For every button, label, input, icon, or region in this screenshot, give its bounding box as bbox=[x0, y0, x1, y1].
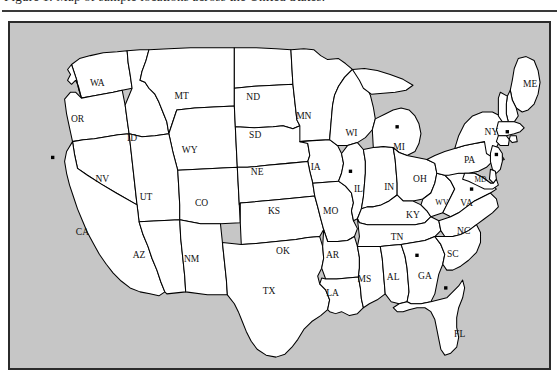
map-figure-frame: WAORIDMTWYNDSDNEMNIAWINVUTCACOAZNMKSOKTX… bbox=[8, 21, 551, 370]
state-label-CA: CA bbox=[76, 227, 89, 237]
state-label-WI: WI bbox=[345, 128, 357, 138]
state-label-KS: KS bbox=[268, 206, 280, 216]
state-label-ND: ND bbox=[246, 92, 260, 102]
state-label-WY: WY bbox=[182, 145, 198, 155]
state-shape-NJ bbox=[490, 146, 502, 174]
figure-caption-text: Figure 1. Map of sample locations across… bbox=[4, 0, 325, 5]
marker-georgia[interactable] bbox=[415, 254, 418, 257]
state-shape-SD[interactable] bbox=[234, 84, 300, 128]
marker-virginia[interactable] bbox=[470, 187, 473, 190]
state-label-FL: FL bbox=[454, 329, 465, 339]
state-label-MS: MS bbox=[357, 274, 371, 284]
marker-newjersey[interactable] bbox=[495, 153, 498, 156]
marker-illinois[interactable] bbox=[349, 170, 352, 173]
state-label-MD: MD bbox=[475, 175, 488, 184]
state-label-MN: MN bbox=[296, 111, 311, 121]
state-label-NM: NM bbox=[184, 254, 200, 264]
state-label-OR: OR bbox=[71, 114, 85, 124]
marker-california[interactable] bbox=[51, 156, 54, 159]
state-label-OK: OK bbox=[276, 246, 290, 256]
state-label-LA: LA bbox=[326, 288, 339, 298]
marker-florida[interactable] bbox=[444, 286, 447, 289]
state-label-IA: IA bbox=[311, 162, 321, 172]
state-label-TX: TX bbox=[263, 286, 276, 296]
state-label-ME: ME bbox=[523, 79, 537, 89]
state-label-MI: MI bbox=[393, 142, 405, 152]
state-label-WA: WA bbox=[90, 78, 105, 88]
state-shape-RI bbox=[509, 136, 517, 143]
state-label-AZ: AZ bbox=[133, 250, 146, 260]
state-label-IN: IN bbox=[384, 182, 394, 192]
state-label-MO: MO bbox=[323, 206, 338, 216]
state-label-SD: SD bbox=[249, 130, 261, 140]
state-label-UT: UT bbox=[140, 192, 153, 202]
state-label-TN: TN bbox=[391, 232, 404, 242]
state-label-VA: VA bbox=[460, 198, 473, 208]
state-label-NE: NE bbox=[251, 167, 264, 177]
state-label-PA: PA bbox=[464, 155, 475, 165]
figure-caption-strip: Figure 1. Map of sample locations across… bbox=[0, 0, 559, 9]
state-shape-VT bbox=[498, 92, 508, 122]
state-label-OH: OH bbox=[413, 174, 427, 184]
us-states-map[interactable]: WAORIDMTWYNDSDNEMNIAWINVUTCACOAZNMKSOKTX… bbox=[10, 23, 549, 368]
state-label-GA: GA bbox=[418, 271, 432, 281]
state-shape-MA bbox=[496, 122, 524, 136]
state-label-ID: ID bbox=[127, 133, 137, 143]
state-shape-CT bbox=[496, 136, 509, 146]
state-label-CO: CO bbox=[195, 198, 208, 208]
state-shape-WA[interactable] bbox=[72, 51, 133, 98]
state-shape-ND[interactable] bbox=[234, 48, 293, 89]
marker-michigan[interactable] bbox=[395, 125, 398, 128]
state-label-AL: AL bbox=[387, 272, 400, 282]
state-label-NV: NV bbox=[95, 174, 109, 184]
state-label-KY: KY bbox=[406, 210, 420, 220]
state-label-NY: NY bbox=[485, 127, 499, 137]
state-label-AR: AR bbox=[326, 250, 340, 260]
state-shape-NE[interactable] bbox=[235, 126, 309, 168]
state-shape-WY[interactable] bbox=[169, 106, 237, 170]
marker-massachusetts[interactable] bbox=[506, 130, 509, 133]
state-label-NC: NC bbox=[457, 226, 470, 236]
state-label-MT: MT bbox=[175, 91, 189, 101]
horizontal-rule-divider bbox=[2, 10, 557, 12]
state-label-SC: SC bbox=[447, 249, 459, 259]
state-label-IL: IL bbox=[354, 184, 363, 194]
state-label-WV: WV bbox=[435, 198, 448, 207]
state-shape-CO[interactable] bbox=[178, 167, 241, 223]
